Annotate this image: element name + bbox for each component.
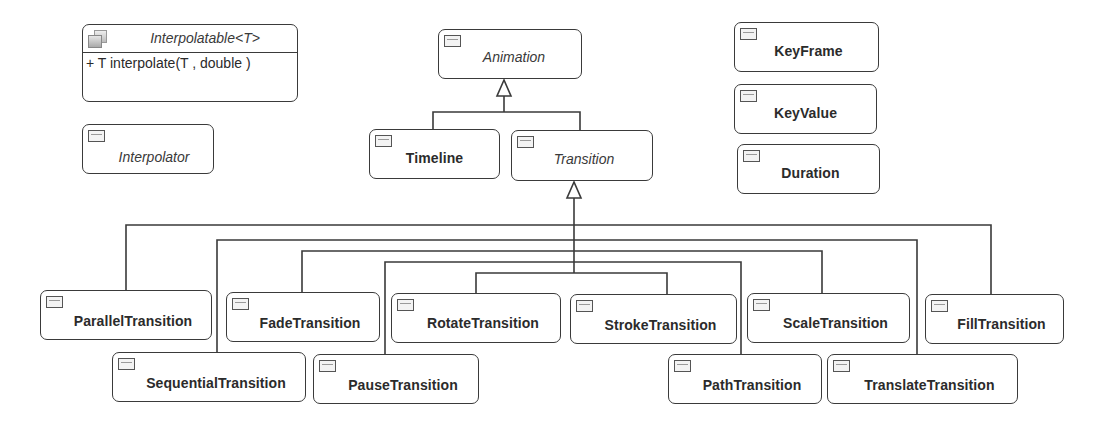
class-name: FillTransition [940,316,1063,332]
class-name: Duration [742,165,879,181]
class-parallel-transition[interactable]: ParallelTransition [40,290,212,340]
method-interpolate: + T interpolate(T , double ) [86,55,251,71]
class-fill-transition[interactable]: FillTransition [925,294,1064,344]
class-keyframe[interactable]: KeyFrame [734,22,879,72]
class-name: RotateTransition [406,315,560,331]
class-icon [674,360,691,372]
generalization-arrowhead [497,80,511,96]
class-interpolator[interactable]: Interpolator [82,124,214,174]
class-icon [444,35,461,47]
class-keyvalue[interactable]: KeyValue [734,84,877,134]
class-icon [319,360,336,372]
interface-icon [88,30,108,48]
class-icon [88,130,105,142]
class-icon [743,150,760,162]
class-name: KeyValue [735,105,876,121]
class-name: KeyFrame [739,43,878,59]
class-animation[interactable]: Animation [438,29,582,79]
class-icon [118,358,135,370]
class-icon [740,90,757,102]
class-icon [517,136,534,148]
class-icon [232,298,249,310]
class-name: Animation [447,49,581,65]
class-duration[interactable]: Duration [737,144,880,194]
class-name: Transition [516,151,652,167]
class-name: PauseTransition [328,377,478,393]
class-fade-transition[interactable]: FadeTransition [226,292,380,342]
class-icon [375,135,392,147]
class-icon [931,300,948,312]
class-translate-transition[interactable]: TranslateTransition [827,354,1018,404]
class-sequential-transition[interactable]: SequentialTransition [112,352,306,402]
class-interpolatable[interactable]: Interpolatable<T> + T interpolate(T , do… [82,24,298,102]
class-rotate-transition[interactable]: RotateTransition [391,293,561,343]
class-name: PathTransition [683,377,821,393]
class-name: Interpolator [95,149,213,165]
class-name: SequentialTransition [127,375,305,391]
class-icon [46,296,63,308]
class-timeline[interactable]: Timeline [369,129,500,179]
class-name: ParallelTransition [55,313,211,329]
class-icon [753,299,770,311]
class-name: TranslateTransition [842,377,1017,393]
class-pause-transition[interactable]: PauseTransition [313,354,479,404]
class-stroke-transition[interactable]: StrokeTransition [570,294,737,344]
class-icon [740,28,757,40]
class-transition[interactable]: Transition [511,130,653,181]
uml-class-diagram: Interpolatable<T> + T interpolate(T , do… [0,0,1108,433]
class-icon [576,300,593,312]
class-scale-transition[interactable]: ScaleTransition [747,293,910,343]
class-path-transition[interactable]: PathTransition [668,354,822,404]
class-name: Interpolatable<T> [113,30,297,46]
compartment-divider [83,52,297,53]
class-name: Timeline [370,150,499,166]
class-name: StrokeTransition [585,317,736,333]
class-name: FadeTransition [241,315,379,331]
class-icon [397,299,414,311]
class-name: ScaleTransition [762,315,909,331]
class-icon [833,360,850,372]
generalization-arrowhead [567,182,581,198]
